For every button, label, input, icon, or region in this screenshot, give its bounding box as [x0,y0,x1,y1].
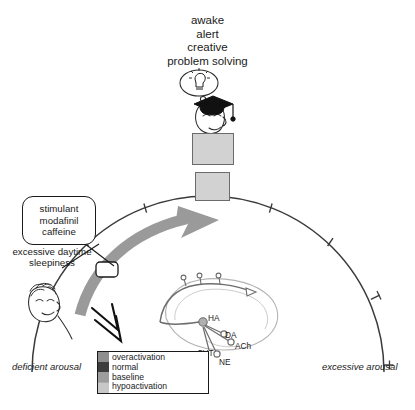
condition-line-1: excessive daytime [4,246,100,257]
arc-tick [371,295,380,299]
activation-legend: overactivation normal baseline hypoactiv… [97,351,209,394]
graduate-lightbulb-icon [180,68,235,134]
callout-line-caffeine: caffeine [42,226,76,238]
legend-gradient-swatch [98,352,109,393]
nt-label-ach: ACh [235,341,251,351]
double-chevron-down-icon [92,304,121,341]
sleepy-face-icon [29,283,72,339]
nt-label-da: DA [225,330,237,340]
legend-label-list: overactivation normal baseline hypoactiv… [109,352,208,393]
callout-line-stimulant: stimulant [40,203,79,215]
condition-label: excessive daytime sleepiness [4,246,100,269]
condition-line-2: sleepiness [4,257,100,268]
callout-line-modafinil: modafinil [40,215,79,227]
arc-tick-cap [377,291,381,300]
nt-label-ne: NE [219,357,231,367]
legend-item-normal: normal [112,363,208,373]
state-line-awake: awake [0,14,415,28]
person-writing-icon-frame [195,172,230,201]
state-line-creative: creative [0,41,415,55]
axis-label-excessive-arousal: excessive arousal [322,361,398,372]
legend-item-hypoactivation: hypoactivation [112,382,208,392]
state-line-problem-solving: problem solving [0,55,415,69]
stimulant-callout[interactable]: stimulant modafinil caffeine [22,196,96,245]
nt-label-ha: HA [208,313,220,323]
progress-arrow-head [176,206,219,238]
axis-label-deficient-arousal: deficient arousal [12,361,81,372]
state-line-alert: alert [0,28,415,42]
person-reading-icon-frame [192,133,234,165]
diagram-canvas: awake alert creative problem solving sti… [0,0,415,410]
arousal-state-text-block: awake alert creative problem solving [0,14,415,68]
